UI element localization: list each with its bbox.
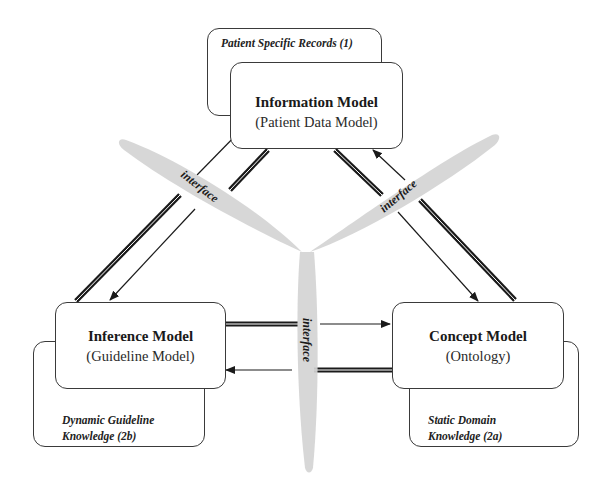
double-line-left-upper <box>230 150 268 190</box>
information-model-title: Information Model <box>231 93 402 112</box>
interface-blade-bottom <box>297 252 317 473</box>
inference-model-box: Inference Model (Guideline Model) <box>55 302 226 389</box>
arrow-information-to-concept <box>398 212 478 301</box>
double-line-right-lower <box>420 200 515 300</box>
double-line-left-lower <box>76 195 180 301</box>
concept-model-box: Concept Model (Ontology) <box>392 302 564 389</box>
inference-model-title: Inference Model <box>56 327 225 346</box>
information-model-box: Information Model (Patient Data Model) <box>230 62 403 149</box>
arrow-concept-to-information <box>373 150 405 180</box>
concept-model-title: Concept Model <box>393 327 563 346</box>
information-model-subtitle: (Patient Data Model) <box>231 113 402 132</box>
interface-label-bottom: interface <box>300 318 314 363</box>
double-line-right-upper <box>335 150 382 195</box>
inference-model-subtitle: (Guideline Model) <box>56 347 225 366</box>
concept-model-subtitle: (Ontology) <box>393 347 563 366</box>
